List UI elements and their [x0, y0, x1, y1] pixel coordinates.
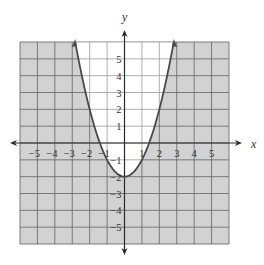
y-axis-label: y	[121, 10, 128, 24]
x-tick-label: 3	[174, 148, 179, 159]
y-tick-label: −5	[110, 222, 121, 233]
x-tick-label: 2	[157, 148, 162, 159]
y-tick-label: −3	[110, 189, 121, 200]
x-tick-label: −2	[81, 148, 92, 159]
y-tick-label: 3	[116, 88, 121, 99]
y-tick-label: 1	[116, 121, 121, 132]
x-axis-label: x	[250, 137, 257, 151]
y-tick-label: −4	[110, 205, 122, 216]
y-tick-label: −1	[110, 155, 121, 166]
x-tick-label: 1	[139, 148, 144, 159]
x-tick-label: 4	[192, 148, 198, 159]
coordinate-plane: −5−4−3−2−11234554321−1−2−3−4−5 x y	[0, 0, 264, 265]
x-tick-label: −5	[29, 148, 40, 159]
y-tick-label: 4	[116, 71, 122, 82]
x-tick-label: 5	[209, 148, 214, 159]
y-tick-label: 2	[116, 104, 121, 115]
x-tick-label: −1	[98, 148, 109, 159]
y-tick-label: 5	[116, 54, 121, 65]
x-tick-label: −4	[46, 148, 58, 159]
x-tick-label: −3	[64, 148, 75, 159]
y-tick-label: −2	[110, 172, 121, 183]
